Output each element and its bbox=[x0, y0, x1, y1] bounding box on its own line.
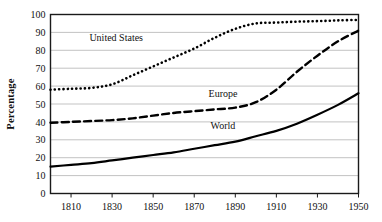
y-tick-label: 50 bbox=[36, 99, 46, 110]
series-label-world: World bbox=[211, 120, 236, 131]
y-tick-label: 60 bbox=[36, 81, 46, 92]
gridline-group bbox=[51, 32, 359, 175]
x-tick-label: 1950 bbox=[349, 201, 369, 212]
x-tick-label: 1910 bbox=[266, 201, 286, 212]
series-annotation-group: United StatesEuropeWorld bbox=[89, 32, 238, 131]
x-tick-label: 1850 bbox=[143, 201, 163, 212]
series-label-united-states: United States bbox=[89, 32, 143, 43]
y-tick-label: 80 bbox=[36, 45, 46, 56]
x-tick-label-group: 18101830185018701890191019301950 bbox=[61, 201, 368, 212]
chart-figure: 0102030405060708090100 18101830185018701… bbox=[0, 0, 382, 222]
y-tick-label: 0 bbox=[41, 188, 46, 199]
series-line-europe bbox=[51, 31, 359, 123]
y-tick-label: 20 bbox=[36, 152, 46, 163]
y-tick-label: 10 bbox=[36, 170, 46, 181]
series-line-united-states bbox=[51, 20, 359, 90]
x-tick-label: 1890 bbox=[225, 201, 245, 212]
y-tick-label: 90 bbox=[36, 27, 46, 38]
y-tick-label: 70 bbox=[36, 63, 46, 74]
series-label-europe: Europe bbox=[209, 88, 238, 99]
x-tick-label: 1930 bbox=[307, 201, 327, 212]
y-tick-label-group: 0102030405060708090100 bbox=[31, 9, 46, 199]
x-tick-label: 1810 bbox=[61, 201, 81, 212]
y-tick-label: 100 bbox=[31, 9, 46, 20]
y-axis-title: Percentage bbox=[5, 78, 16, 130]
y-tick-label: 40 bbox=[36, 117, 46, 128]
x-tick-label: 1870 bbox=[184, 201, 204, 212]
line-chart: 0102030405060708090100 18101830185018701… bbox=[0, 0, 382, 222]
x-tick-label: 1830 bbox=[102, 201, 122, 212]
y-tick-label: 30 bbox=[36, 134, 46, 145]
